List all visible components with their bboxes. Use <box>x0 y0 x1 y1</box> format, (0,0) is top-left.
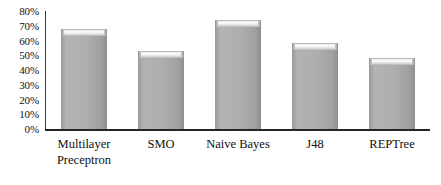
x-axis-label-line: Preceptron <box>29 152 139 168</box>
y-axis-tick-label: 0% <box>25 124 39 135</box>
x-axis-category-labels: MultilayerPreceptronSMONaive BayesJ48REP… <box>46 136 430 182</box>
y-axis-tick-label: 70% <box>19 21 39 32</box>
bar-top-highlight <box>369 58 415 65</box>
x-axis-label-line: Multilayer <box>58 137 111 151</box>
bar-naive-bayes <box>215 20 261 129</box>
bar-top-highlight <box>138 51 184 58</box>
y-axis-tick-label: 10% <box>19 109 39 120</box>
y-axis-tick-label: 40% <box>19 65 39 76</box>
y-axis-tick-label: 60% <box>19 36 39 47</box>
bar-top-highlight <box>215 20 261 27</box>
bar-reptree <box>369 58 415 129</box>
y-axis-tick-label: 30% <box>19 80 39 91</box>
y-axis-tick-label: 80% <box>19 6 39 17</box>
y-axis-tick-label: 20% <box>19 95 39 106</box>
bar-smo <box>138 51 184 129</box>
x-axis-label-line: J48 <box>306 137 323 151</box>
x-axis-label-line: REPTree <box>369 137 414 151</box>
bar-chart: 80%70%60%50%40%30%20%10%0% MultilayerPre… <box>0 0 441 185</box>
x-axis-line <box>45 129 430 131</box>
y-axis-tick-label: 50% <box>19 50 39 61</box>
y-axis-tick-labels: 80%70%60%50%40%30%20%10%0% <box>0 5 42 133</box>
bar-j48 <box>292 43 338 129</box>
bar-top-highlight <box>292 43 338 50</box>
bar-top-highlight <box>61 29 107 36</box>
x-axis-label-reptree: REPTree <box>337 136 441 152</box>
x-axis-label-line: SMO <box>147 137 174 151</box>
bar-multilayer-preceptron <box>61 29 107 129</box>
plot-area <box>46 11 430 129</box>
